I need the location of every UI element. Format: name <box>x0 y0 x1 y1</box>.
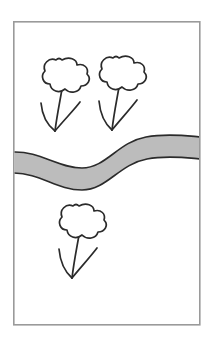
drawing-canvas: Flowers divided by a winding path Line d… <box>0 0 213 341</box>
scene-illustration <box>0 0 213 341</box>
